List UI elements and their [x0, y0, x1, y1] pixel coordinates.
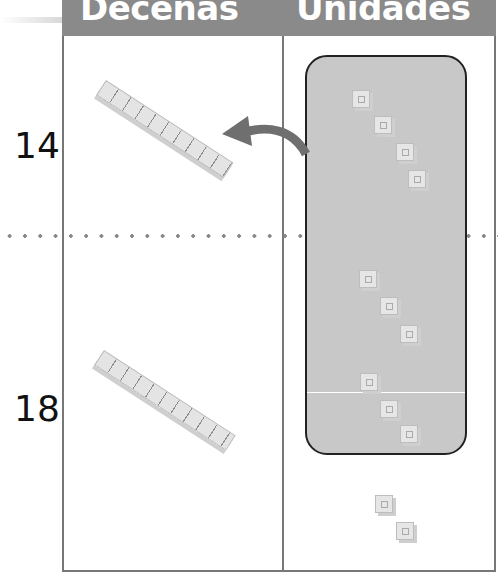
regroup-arrow-icon: [222, 108, 312, 158]
row-number-18: 18: [14, 388, 60, 429]
unit-cube-icon: [396, 143, 414, 161]
table-header: Decenas Unidades: [62, 0, 496, 36]
unit-cube-icon: [374, 116, 392, 134]
header-fade-line: [0, 17, 62, 23]
box-line: [307, 392, 465, 393]
unit-cube-icon: [396, 522, 414, 540]
unit-cube-icon: [408, 170, 426, 188]
unit-cube-icon: [359, 270, 377, 288]
row-number-14: 14: [14, 125, 60, 166]
header-tens: Decenas: [80, 0, 238, 28]
unit-cube-icon: [400, 425, 418, 443]
unit-cube-icon: [380, 400, 398, 418]
unit-cube-icon: [400, 325, 418, 343]
unit-cube-icon: [380, 297, 398, 315]
unit-cube-icon: [375, 495, 393, 513]
regroup-box: [305, 55, 467, 455]
header-units: Unidades: [296, 0, 470, 28]
unit-cube-icon: [360, 373, 378, 391]
unit-cube-icon: [352, 90, 370, 108]
